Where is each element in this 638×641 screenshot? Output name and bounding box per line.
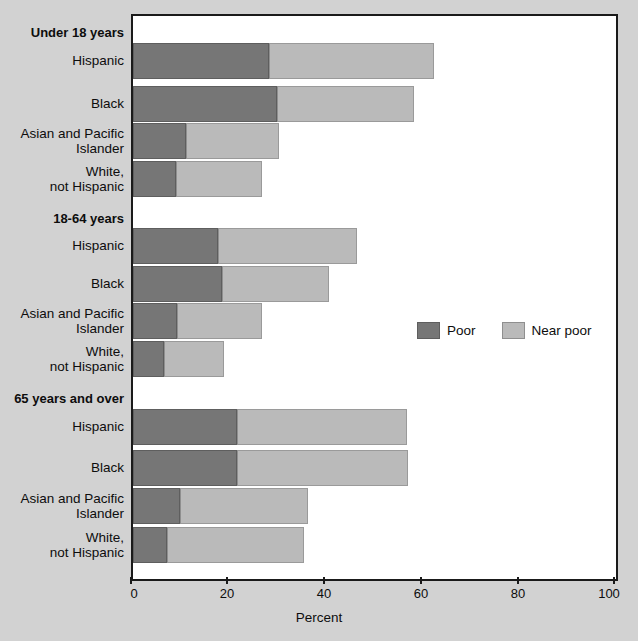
legend-swatch-near-poor-icon	[502, 322, 525, 339]
category-label-white-not-hispanic-line2: not Hispanic	[0, 359, 124, 375]
bar-segment-near-poor	[177, 303, 262, 339]
x-tick-label-20: 20	[220, 586, 234, 601]
bar-segment-poor	[133, 43, 269, 79]
bar-segment-near-poor	[237, 450, 408, 486]
bar-18to64-black	[133, 266, 329, 302]
x-tick-80	[517, 577, 519, 584]
category-label-white-not-hispanic-line1: White,	[0, 164, 124, 180]
x-tick-40	[323, 577, 325, 584]
bar-segment-near-poor	[180, 488, 308, 524]
category-label-asian-pacific-islander-line1: Asian and Pacific	[0, 491, 124, 507]
bar-segment-poor	[133, 450, 237, 486]
bar-65plus-hispanic	[133, 409, 407, 445]
category-label-black: Black	[0, 460, 124, 476]
bar-segment-poor	[133, 161, 176, 197]
legend-swatch-poor-icon	[417, 322, 440, 339]
x-axis-title: Percent	[0, 610, 638, 625]
bar-segment-near-poor	[277, 86, 414, 122]
legend-label-poor: Poor	[447, 323, 476, 338]
category-label-hispanic: Hispanic	[0, 419, 124, 435]
x-tick-label-0: 0	[130, 586, 137, 601]
bar-segment-poor	[133, 303, 177, 339]
x-tick-label-60: 60	[414, 586, 428, 601]
category-label-black: Black	[0, 276, 124, 292]
legend: Poor Near poor	[417, 322, 592, 339]
group-label-under-18: Under 18 years	[0, 25, 124, 41]
x-tick-label-40: 40	[317, 586, 331, 601]
category-label-asian-pacific-islander-line2: Islander	[0, 321, 124, 337]
x-tick-0	[130, 577, 132, 584]
bar-segment-poor	[133, 409, 237, 445]
bar-65plus-black	[133, 450, 408, 486]
bar-65plus-asian-pacific-islander	[133, 488, 308, 524]
stacked-bar-chart: Under 18 years Hispanic Black Asian and …	[0, 0, 638, 641]
bar-under18-white-not-hispanic	[133, 161, 262, 197]
x-tick-20	[226, 577, 228, 584]
bar-segment-near-poor	[269, 43, 434, 79]
category-label-asian-pacific-islander-line1: Asian and Pacific	[0, 306, 124, 322]
bar-segment-poor	[133, 527, 167, 563]
legend-item-poor: Poor	[417, 322, 476, 339]
bar-18to64-white-not-hispanic	[133, 341, 224, 377]
category-label-hispanic: Hispanic	[0, 238, 124, 254]
category-label-asian-pacific-islander-line2: Islander	[0, 141, 124, 157]
category-label-asian-pacific-islander-line1: Asian and Pacific	[0, 126, 124, 142]
bar-segment-near-poor	[222, 266, 329, 302]
legend-label-near-poor: Near poor	[532, 323, 592, 338]
bar-segment-poor	[133, 488, 180, 524]
x-tick-label-80: 80	[511, 586, 525, 601]
group-label-18-64: 18-64 years	[0, 211, 124, 227]
bar-segment-poor	[133, 341, 164, 377]
category-label-asian-pacific-islander-line2: Islander	[0, 506, 124, 522]
bar-segment-near-poor	[164, 341, 224, 377]
category-label-hispanic: Hispanic	[0, 53, 124, 69]
category-label-white-not-hispanic-line2: not Hispanic	[0, 179, 124, 195]
x-tick-label-100: 100	[598, 586, 620, 601]
bar-segment-poor	[133, 123, 186, 159]
bar-segment-near-poor	[218, 228, 357, 264]
bar-segment-poor	[133, 228, 218, 264]
category-label-white-not-hispanic-line1: White,	[0, 344, 124, 360]
bar-segment-near-poor	[167, 527, 304, 563]
category-label-white-not-hispanic-line1: White,	[0, 530, 124, 546]
bar-65plus-white-not-hispanic	[133, 527, 304, 563]
bar-18to64-hispanic	[133, 228, 357, 264]
bar-segment-poor	[133, 86, 277, 122]
x-tick-60	[420, 577, 422, 584]
group-label-65-and-over: 65 years and over	[0, 391, 124, 407]
bar-segment-poor	[133, 266, 222, 302]
category-label-white-not-hispanic-line2: not Hispanic	[0, 545, 124, 561]
legend-item-near-poor: Near poor	[502, 322, 592, 339]
bar-segment-near-poor	[186, 123, 279, 159]
x-tick-100	[613, 577, 615, 584]
bar-segment-near-poor	[237, 409, 407, 445]
bar-segment-near-poor	[176, 161, 262, 197]
bar-18to64-asian-pacific-islander	[133, 303, 262, 339]
category-label-black: Black	[0, 96, 124, 112]
bar-under18-hispanic	[133, 43, 434, 79]
bar-under18-asian-pacific-islander	[133, 123, 279, 159]
bar-under18-black	[133, 86, 414, 122]
